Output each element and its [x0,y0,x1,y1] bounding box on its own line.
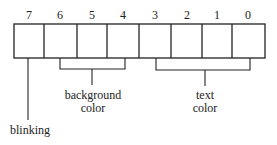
bit-number-5: 5 [89,8,95,22]
background-label-line2: color [81,101,106,115]
bit-number-6: 6 [57,8,63,22]
bit-numbers: 7 6 5 4 3 2 1 0 [26,8,251,22]
background-bracket [60,58,125,69]
bit-number-7: 7 [26,8,32,22]
blinking-label: blinking [10,123,50,137]
byte-box [14,24,265,58]
bit-number-0: 0 [245,8,251,22]
background-label-line1: background [65,88,122,102]
bit-number-4: 4 [120,8,126,22]
text-bracket [156,58,250,70]
text-label-line2: color [193,101,218,115]
attribute-byte-diagram: 7 6 5 4 3 2 1 0 background color text co… [0,0,277,145]
text-label-line1: text [196,88,215,102]
bit-number-2: 2 [184,8,190,22]
bit-number-3: 3 [152,8,158,22]
bit-number-1: 1 [214,8,220,22]
